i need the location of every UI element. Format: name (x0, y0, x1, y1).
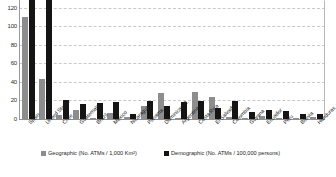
bar-group (240, 0, 257, 119)
y-tick-label: 80 (1, 42, 17, 48)
bar-geographic (73, 110, 79, 119)
bar-group (189, 0, 206, 119)
y-tick-label: 0 (1, 116, 17, 122)
bar-geographic (124, 117, 130, 119)
bar-group (206, 0, 223, 119)
bar-geographic (242, 118, 248, 119)
bar-group (257, 0, 274, 119)
y-tick-label: 20 (1, 97, 17, 103)
y-tick-label: 60 (1, 60, 17, 66)
bar-geographic (293, 118, 299, 119)
bar-group (223, 0, 240, 119)
bar-group (71, 0, 88, 119)
bar-group (291, 0, 308, 119)
legend-item-demographic: Demographic (No. ATMs / 100,000 persons) (164, 150, 280, 157)
x-axis-category-labels: SpainUnited StatesChileGuatemalaBrazilMe… (20, 120, 325, 150)
bar-group (308, 0, 325, 119)
bar-group (105, 0, 122, 119)
y-axis-tick-labels: 120 100 80 60 40 20 0 (0, 0, 17, 120)
bottom-margin (0, 168, 327, 177)
bar-group (122, 0, 139, 119)
bar-group (37, 0, 54, 119)
legend-label-geographic: Geographic (No. ATMs / 1,000 Km²) (48, 150, 137, 157)
bar-group (139, 0, 156, 119)
bar-geographic (39, 79, 45, 119)
legend-item-geographic: Geographic (No. ATMs / 1,000 Km²) (41, 150, 137, 157)
bar-demographic (46, 0, 52, 119)
legend-swatch-icon-geographic (41, 151, 46, 156)
bar-geographic (175, 118, 181, 119)
bar-group (20, 0, 37, 119)
legend-swatch-icon-demographic (164, 151, 169, 156)
y-tick-label: 100 (1, 23, 17, 29)
bar-group (88, 0, 105, 119)
bar-demographic (29, 0, 35, 119)
y-tick-label: 40 (1, 79, 17, 85)
legend-label-demographic: Demographic (No. ATMs / 100,000 persons) (171, 150, 280, 157)
bar-geographic (226, 117, 232, 119)
bar-group (274, 0, 291, 119)
bar-geographic (276, 118, 282, 119)
bar-group (156, 0, 173, 119)
chart-legend: Geographic (No. ATMs / 1,000 Km²) Demogr… (0, 150, 327, 164)
bar-geographic (22, 17, 28, 119)
bar-geographic (90, 118, 96, 119)
y-tick-label: 120 (1, 5, 17, 11)
